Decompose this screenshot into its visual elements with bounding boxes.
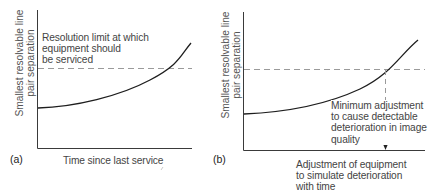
stray-mark bbox=[161, 167, 163, 170]
panel-a-tag: (a) bbox=[10, 153, 23, 165]
panel-a-annotation-line2: equipment should bbox=[42, 43, 149, 54]
arrow-down-icon bbox=[383, 144, 388, 150]
panel-b-x-axis-label: Adjustment of equipment to simulate dete… bbox=[296, 159, 406, 193]
panel-b-annotation: Minimum adjustment to cause detectable d… bbox=[331, 100, 429, 145]
panel-a-y-label-line2: pair separation bbox=[25, 3, 36, 123]
panel-b-x-label-line3: with time bbox=[296, 181, 406, 192]
panel-b-annotation-line3: deterioration in image bbox=[331, 122, 427, 133]
panel-b-y-label-line2: pair separation bbox=[231, 5, 242, 125]
panel-b-x-label-line2: to simulate deterioration bbox=[296, 170, 406, 181]
panel-a-axes bbox=[38, 10, 193, 149]
panel-b-annotation-line1: Minimum adjustment bbox=[331, 100, 427, 111]
panel-b-y-axis-label: Smallest resolvable line pair separation bbox=[220, 5, 242, 125]
panel-b-annotation-line4: quality bbox=[331, 134, 427, 145]
panel-a-annotation: Resolution limit at which equipment shou… bbox=[42, 32, 149, 66]
panel-a-annotation-line1: Resolution limit at which bbox=[42, 32, 149, 43]
panel-a-y-label-line1: Smallest resolvable line bbox=[14, 3, 25, 123]
panel-a-annotation-line3: be serviced bbox=[42, 54, 149, 65]
panel-b-annotation-line2: to cause detectable bbox=[331, 111, 427, 122]
panel-a-y-axis-label: Smallest resolvable line pair separation bbox=[14, 3, 36, 123]
panel-a-x-axis-label: Time since last service bbox=[63, 155, 163, 166]
panel-b-x-label-line1: Adjustment of equipment bbox=[296, 159, 406, 170]
panel-b-y-label-line1: Smallest resolvable line bbox=[220, 5, 231, 125]
panel-b-tag: (b) bbox=[213, 153, 226, 165]
